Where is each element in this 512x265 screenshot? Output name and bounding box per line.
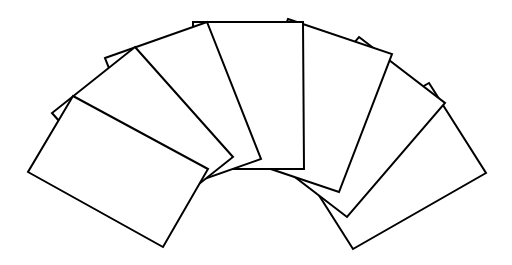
card-fan-diagram bbox=[0, 0, 512, 265]
